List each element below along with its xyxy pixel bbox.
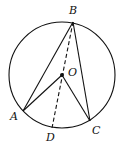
- segment-ba: [23, 22, 73, 111]
- label-c: C: [92, 124, 101, 137]
- label-b: B: [68, 4, 77, 17]
- label-a: A: [9, 110, 18, 123]
- label-d: D: [45, 131, 55, 144]
- label-o: O: [68, 66, 77, 79]
- geometry-diagram: B O A D C: [0, 0, 120, 145]
- center-point-o: [60, 73, 64, 77]
